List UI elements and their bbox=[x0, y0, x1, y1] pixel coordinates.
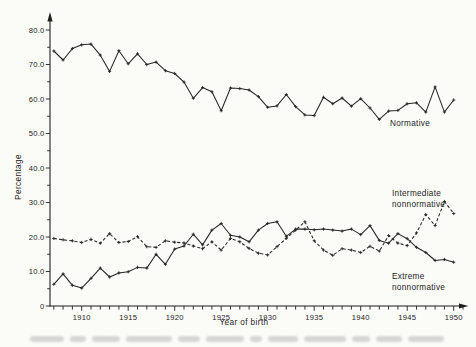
x-axis-arrow-icon bbox=[459, 303, 469, 308]
y-tick-group: 80.070.060.050.040.030.020.010.00 bbox=[29, 26, 50, 311]
y-tick-label: 70.0 bbox=[29, 60, 45, 69]
x-tick-label: 1945 bbox=[398, 313, 416, 322]
x-tick-label: 1935 bbox=[305, 313, 323, 322]
y-axis-title: Percentage bbox=[14, 154, 23, 200]
x-tick-label: 1920 bbox=[166, 313, 184, 322]
y-tick-label: 40.0 bbox=[29, 164, 45, 173]
annotation-intermediate-line2: nonnormative bbox=[392, 200, 445, 209]
x-tick-label: 1910 bbox=[73, 313, 91, 322]
annotation-extreme-line2: nonnormative bbox=[392, 283, 445, 292]
y-tick-label: 80.0 bbox=[29, 26, 45, 35]
y-tick-label: 30.0 bbox=[29, 198, 45, 207]
annotation-extreme-line1: Extreme bbox=[392, 272, 425, 281]
series-markers-0 bbox=[52, 43, 455, 122]
series-line-0 bbox=[54, 44, 454, 119]
y-tick-label: 50.0 bbox=[29, 129, 45, 138]
y-tick-label: 20.0 bbox=[29, 233, 45, 242]
y-tick-label: 10.0 bbox=[29, 267, 45, 276]
y-axis-arrow-icon bbox=[47, 12, 52, 22]
line-chart: 80.070.060.050.040.030.020.010.00 191019… bbox=[0, 0, 476, 347]
annotation-intermediate-line1: Intermediate bbox=[392, 189, 441, 198]
x-tick-label: 1940 bbox=[352, 313, 370, 322]
cropped-caption-fragment bbox=[30, 336, 444, 344]
scanned-figure-page: 80.070.060.050.040.030.020.010.00 191019… bbox=[0, 0, 476, 347]
y-tick-label: 0 bbox=[40, 302, 44, 311]
x-axis-title: Year of birth bbox=[219, 318, 268, 327]
series-line-1 bbox=[54, 202, 454, 256]
x-tick-label: 1950 bbox=[445, 313, 463, 322]
x-tick-label: 1915 bbox=[119, 313, 137, 322]
axes bbox=[47, 12, 468, 309]
annotation-normative: Normative bbox=[390, 119, 430, 128]
series-group bbox=[52, 43, 455, 290]
y-tick-label: 60.0 bbox=[29, 95, 45, 104]
